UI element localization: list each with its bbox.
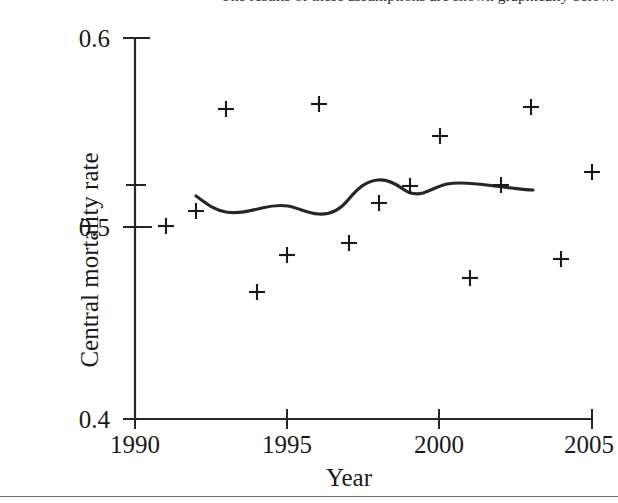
y-tick-label-0.6: 0.6: [40, 26, 110, 51]
chart-figure: 0.6 0.5 0.4 1990 1995 2000 2005 Central …: [0, 0, 618, 503]
trend-line: [196, 180, 533, 214]
x-axis-title: Year: [0, 464, 618, 492]
marker-2002: [493, 177, 509, 193]
marker-2003: [523, 99, 539, 115]
x-tick-label-2000: 2000: [414, 432, 464, 457]
marker-1991: [158, 218, 174, 234]
x-tick-label-1995: 1995: [262, 432, 312, 457]
marker-1994: [249, 284, 265, 300]
axis-lines: [135, 38, 592, 419]
marker-1997: [341, 235, 357, 251]
y-axis-title: Central mortality rate: [76, 110, 104, 410]
x-tick-label-2005: 2005: [564, 432, 614, 457]
scatter-markers: [158, 96, 600, 300]
y-tick-label-0.4: 0.4: [40, 407, 110, 432]
marker-1993: [218, 101, 234, 117]
marker-2001: [462, 270, 478, 286]
page-bottom-rule: [0, 496, 618, 497]
x-tick-label-1990: 1990: [110, 432, 160, 457]
marker-2004: [553, 251, 569, 267]
marker-1995: [279, 247, 295, 263]
marker-2000: [432, 128, 448, 144]
marker-1996: [311, 96, 327, 112]
y-axis-ticks: [123, 38, 152, 419]
marker-1998: [371, 195, 387, 211]
marker-1992: [188, 203, 204, 219]
marker-2005: [584, 164, 600, 180]
